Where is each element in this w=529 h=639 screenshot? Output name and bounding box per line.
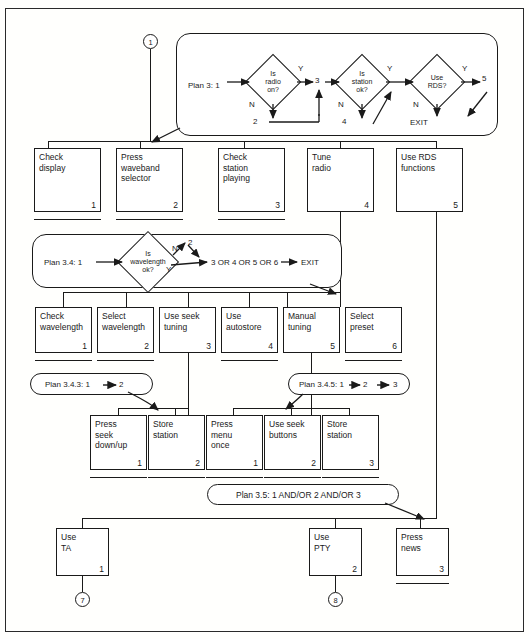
task-number: 2 xyxy=(352,565,357,574)
task-box-use-ta[interactable]: UseTA 1 xyxy=(56,528,109,576)
task-number: 1 xyxy=(99,565,104,574)
use-pty-descender xyxy=(335,576,336,592)
task-label: UsePTY xyxy=(314,532,359,553)
task-label: UseTA xyxy=(61,532,106,553)
task-label: Pressnews xyxy=(401,532,446,553)
task-box-press-news[interactable]: Pressnews 3 xyxy=(396,528,449,576)
hta-diagram-page: 1 Plan 3: 1 Is radio on? Is station ok? xyxy=(0,0,529,639)
row4-drop-3 xyxy=(420,518,421,528)
connector-circle-7: 7 xyxy=(75,592,90,607)
task-number: 3 xyxy=(439,565,444,574)
row4-bus xyxy=(82,518,436,519)
connector-circle-8: 8 xyxy=(328,592,343,607)
task-box-use-pty[interactable]: UsePTY 2 xyxy=(309,528,362,576)
row4-drop-1 xyxy=(82,518,83,528)
use-ta-descender xyxy=(82,576,83,592)
terminal-underline-press-news xyxy=(396,583,449,584)
row4-drop-2 xyxy=(335,518,336,528)
